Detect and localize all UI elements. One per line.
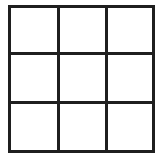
grid-cell-r3c3[interactable] [108,104,152,150]
grid-figure [0,0,165,167]
grid-cell-r3c2[interactable] [60,104,105,150]
grid-cell-r2c1[interactable] [11,55,57,101]
grid-cell-r2c2[interactable] [60,55,105,101]
grid-cell-r1c1[interactable] [11,8,57,52]
grid-cell-r2c3[interactable] [108,55,152,101]
grid-cell-r3c1[interactable] [11,104,57,150]
grid-cell-r1c2[interactable] [60,8,105,52]
grid-cell-r1c3[interactable] [108,8,152,52]
